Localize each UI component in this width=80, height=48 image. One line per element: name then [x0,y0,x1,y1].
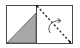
triangle-corner-dot [7,42,9,44]
diagonal-end-dot [69,41,71,43]
diagonal-start-dot [36,5,38,7]
reflect-diagonal-icon [0,0,80,48]
reflect-diagonal-diagram [0,0,80,48]
